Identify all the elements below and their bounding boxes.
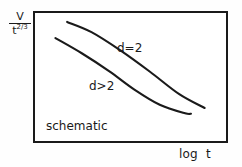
upper-curve-label: d=2	[117, 41, 142, 55]
lower-curve-label: d>2	[89, 79, 114, 93]
y-axis-label-numerator: V	[8, 11, 32, 23]
x-axis-label: log t	[179, 147, 211, 161]
figure-canvas: V t2/3 schematic d=2 d>2 log t	[0, 0, 242, 167]
plot-frame: schematic	[33, 11, 228, 143]
y-axis-label-denominator: t2/3	[8, 24, 32, 36]
y-axis-label-denominator-exponent: 2/3	[17, 23, 28, 31]
y-axis-label: V t2/3	[8, 11, 32, 36]
schematic-caption: schematic	[46, 119, 108, 133]
